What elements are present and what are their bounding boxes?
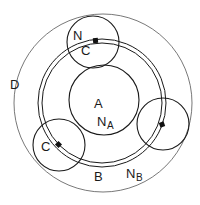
label-na-sub: A [107, 120, 114, 131]
label-b: B [94, 169, 103, 184]
label-d: D [10, 77, 19, 92]
top-contact-square [93, 38, 98, 43]
label-top-c: C [81, 43, 90, 58]
label-nb-main: N [126, 166, 135, 181]
concentric-circles-diagram: D N C A N A C B N B [0, 0, 200, 205]
outer-circle-d [14, 14, 192, 192]
label-top-n: N [73, 28, 82, 43]
right-contact-square [159, 121, 165, 127]
label-nb-sub: B [136, 172, 143, 183]
label-na-main: N [97, 114, 106, 129]
label-left-c: C [41, 139, 50, 154]
label-a: A [94, 96, 103, 111]
